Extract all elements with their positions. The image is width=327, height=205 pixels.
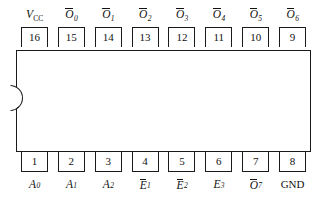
signal-name: A — [103, 179, 110, 191]
pin-signal-label: O1 — [102, 6, 114, 20]
pin-signal-label: GND — [281, 179, 305, 193]
pin-number-box: 7 — [242, 152, 269, 172]
pin-12: O312 — [166, 6, 197, 47]
signal-subscript: 2 — [184, 182, 188, 190]
signal-name: E — [213, 179, 220, 191]
pin-number-box: 3 — [95, 152, 122, 172]
signal-subscript: CC — [33, 15, 43, 23]
pin-number-box: 15 — [58, 27, 85, 47]
pin-number-box: 12 — [168, 27, 195, 47]
pin-signal-label: O7 — [250, 179, 262, 193]
signal-name: A — [66, 179, 73, 191]
pin-7: 7O7 — [240, 152, 271, 193]
signal-subscript: 5 — [258, 15, 262, 23]
bottom-pin-row: 1A02A13A24E15E26E37O78GND — [16, 152, 311, 200]
pin-8: 8GND — [277, 152, 308, 193]
pin-number-box: 10 — [242, 27, 269, 47]
pin-number-box: 2 — [58, 152, 85, 172]
pin-4: 4E1 — [130, 152, 161, 193]
pin-signal-label: O3 — [176, 6, 188, 20]
signal-subscript: 0 — [36, 182, 40, 190]
pin-number-box: 1 — [21, 152, 48, 172]
pin-15: O015 — [56, 6, 87, 47]
pin-signal-label: O6 — [287, 6, 299, 20]
signal-subscript: 7 — [258, 182, 262, 190]
pin-number-box: 5 — [168, 152, 195, 172]
overbar-signal: O — [139, 8, 147, 21]
overbar-signal: O — [213, 8, 221, 21]
pin-number-box: 13 — [132, 27, 159, 47]
overbar-signal: O — [250, 179, 258, 192]
signal-name: A — [29, 179, 36, 191]
pin-number-box: 16 — [21, 27, 48, 47]
pin-number-box: 6 — [205, 152, 232, 172]
overbar-signal: O — [102, 8, 110, 21]
pin-11: O411 — [203, 6, 234, 47]
pin-signal-label: O2 — [139, 6, 151, 20]
overbar-signal: E — [177, 179, 184, 192]
signal-subscript: 3 — [221, 182, 225, 190]
pin-9: O69 — [277, 6, 308, 47]
pin-3: 3A2 — [93, 152, 124, 193]
top-pin-row: VCC16O015O114O213O312O411O510O69 — [16, 6, 311, 51]
pin-1: 1A0 — [19, 152, 50, 193]
signal-subscript: 0 — [74, 15, 78, 23]
signal-name: V — [26, 9, 33, 21]
pin-10: O510 — [240, 6, 271, 47]
overbar-signal: O — [176, 8, 184, 21]
pin-signal-label: E1 — [140, 179, 151, 193]
pin-5: 5E2 — [166, 152, 197, 193]
pin-number-box: 14 — [95, 27, 122, 47]
pin-6: 6E3 — [203, 152, 234, 193]
overbar-signal: O — [287, 8, 295, 21]
overbar-signal: O — [250, 8, 258, 21]
signal-name: GND — [281, 179, 305, 190]
pin-number-box: 9 — [279, 27, 306, 47]
overbar-signal: E — [140, 179, 147, 192]
signal-subscript: 6 — [295, 15, 299, 23]
ic-pinout-diagram: VCC16O015O114O213O312O411O510O69 1A02A13… — [0, 0, 327, 205]
pin-signal-label: O5 — [250, 6, 262, 20]
pin-16: VCC16 — [19, 6, 50, 47]
pin-14: O114 — [93, 6, 124, 47]
pin-signal-label: O4 — [213, 6, 225, 20]
signal-subscript: 2 — [148, 15, 152, 23]
pin-13: O213 — [130, 6, 161, 47]
pin-number-box: 4 — [132, 152, 159, 172]
signal-subscript: 3 — [185, 15, 189, 23]
pin-signal-label: A0 — [29, 179, 40, 193]
pin-signal-label: VCC — [26, 6, 43, 20]
pin-signal-label: O0 — [65, 6, 77, 20]
signal-subscript: 1 — [73, 182, 77, 190]
ic-package-body — [16, 50, 311, 152]
pin-2: 2A1 — [56, 152, 87, 193]
signal-subscript: 4 — [221, 15, 225, 23]
pin-signal-label: E2 — [177, 179, 188, 193]
signal-subscript: 2 — [110, 182, 114, 190]
signal-subscript: 1 — [147, 182, 151, 190]
pin-signal-label: A1 — [66, 179, 77, 193]
pin-number-box: 8 — [279, 152, 306, 172]
pin-signal-label: E3 — [213, 179, 224, 193]
signal-subscript: 1 — [111, 15, 115, 23]
pin-number-box: 11 — [205, 27, 232, 47]
pin-signal-label: A2 — [103, 179, 114, 193]
overbar-signal: O — [65, 8, 73, 21]
